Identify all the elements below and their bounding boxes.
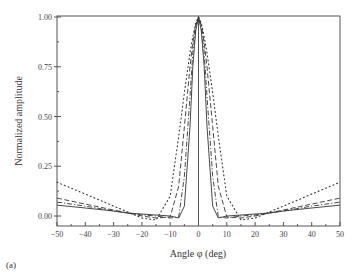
svg-text:1.00: 1.00 [38, 13, 52, 22]
svg-text:−30: −30 [107, 230, 120, 239]
svg-text:30: 30 [279, 230, 287, 239]
amplitude-chart: −50−40−30−20−1001020304050 0.000.250.500… [0, 0, 362, 278]
x-axis-ticks: −50−40−30−20−1001020304050 [51, 222, 344, 239]
svg-text:−20: −20 [136, 230, 149, 239]
svg-text:0.75: 0.75 [38, 63, 52, 72]
svg-text:0.00: 0.00 [38, 212, 52, 221]
x-axis-label: Angle φ (deg) [170, 248, 226, 260]
svg-text:50: 50 [336, 230, 344, 239]
svg-text:10: 10 [223, 230, 231, 239]
svg-text:−50: −50 [51, 230, 64, 239]
svg-text:−10: −10 [164, 230, 177, 239]
svg-text:20: 20 [251, 230, 259, 239]
svg-text:0.25: 0.25 [38, 162, 52, 171]
svg-text:0.50: 0.50 [38, 113, 52, 122]
svg-text:40: 40 [308, 230, 316, 239]
svg-text:−40: −40 [79, 230, 92, 239]
panel-label: (a) [6, 260, 16, 270]
svg-text:0: 0 [197, 230, 201, 239]
y-axis-ticks: 0.000.250.500.751.00 [38, 13, 61, 221]
y-axis-label: Normalized amplitude [13, 76, 24, 166]
